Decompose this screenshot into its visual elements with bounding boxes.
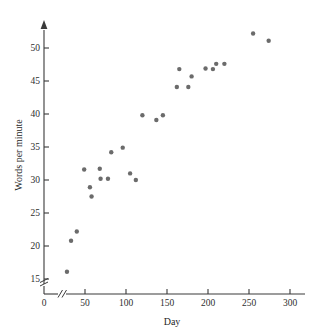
data-point	[177, 67, 181, 71]
x-axis-break-mark	[58, 290, 67, 298]
y-axis-arrow-icon	[41, 20, 48, 29]
scatter-plot-figure: 1520253035404550050100150200250300 Day W…	[0, 0, 313, 336]
x-axis-title: Day	[164, 316, 181, 327]
data-point	[134, 178, 138, 182]
x-axis-tick-label: 300	[283, 298, 298, 308]
data-point	[109, 150, 113, 154]
y-axis-title: Words per minute	[13, 119, 24, 191]
y-axis-tick-label: 45	[31, 76, 41, 86]
x-axis-tick-label: 50	[80, 298, 90, 308]
data-point	[98, 176, 102, 180]
y-axis-tick-label: 40	[31, 109, 41, 119]
data-point	[211, 67, 215, 71]
data-point	[203, 66, 207, 70]
x-axis-tick-label: 0	[42, 298, 47, 308]
data-point	[214, 62, 218, 66]
y-axis-tick-label: 30	[31, 175, 41, 185]
data-point	[161, 113, 165, 117]
data-point	[65, 270, 69, 274]
data-point	[82, 167, 86, 171]
data-point	[128, 171, 132, 175]
plot-canvas: 1520253035404550050100150200250300 Day W…	[0, 0, 313, 336]
data-point	[251, 31, 255, 35]
data-point	[222, 62, 226, 66]
y-axis-tick-label: 50	[31, 43, 41, 53]
data-point	[121, 145, 125, 149]
data-point	[154, 118, 158, 122]
y-axis-tick-label: 35	[31, 142, 41, 152]
data-point	[175, 85, 179, 89]
data-point	[189, 74, 193, 78]
y-axis-tick-label: 20	[31, 241, 41, 251]
y-axis-tick-label: 15	[31, 274, 41, 284]
data-points-group	[65, 31, 271, 274]
data-point	[186, 85, 190, 89]
y-axis-tick-label: 25	[31, 208, 41, 218]
data-point	[106, 176, 110, 180]
x-axis-tick-label: 200	[201, 298, 216, 308]
x-axis-tick-label: 250	[242, 298, 257, 308]
x-axis-tick-label: 100	[119, 298, 134, 308]
data-point	[75, 229, 79, 233]
data-point	[69, 239, 73, 243]
x-axis-tick-label: 150	[160, 298, 175, 308]
data-point	[140, 113, 144, 117]
data-point	[88, 185, 92, 189]
ticks-group	[44, 48, 290, 294]
data-point	[266, 39, 270, 43]
tick-labels-group: 1520253035404550050100150200250300	[31, 43, 298, 308]
data-point	[98, 167, 102, 171]
data-point	[89, 194, 93, 198]
axes-group	[40, 20, 305, 298]
